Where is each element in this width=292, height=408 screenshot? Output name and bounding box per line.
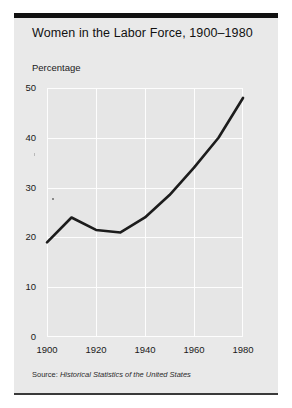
y-tick-label: 10 (8, 282, 36, 292)
source-title: Historical Statistics of the United Stat… (60, 370, 191, 379)
print-speck (52, 198, 54, 200)
x-tick-label: 1900 (25, 345, 69, 355)
y-tick-label: 40 (8, 133, 36, 143)
gridline-vertical (145, 88, 146, 337)
source-note: Source: Historical Statistics of the Uni… (32, 370, 191, 379)
x-tick-label: 1920 (74, 345, 118, 355)
x-tick-label: 1960 (172, 345, 216, 355)
gridline-vertical (194, 88, 195, 337)
plot-wrapper: 01020304050 19001920194019601980 (0, 0, 292, 408)
plot-area (47, 88, 243, 337)
x-tick-label: 1940 (123, 345, 167, 355)
y-tick-label: 50 (8, 83, 36, 93)
print-speck (34, 153, 35, 156)
y-tick-label: 20 (8, 232, 36, 242)
source-label: Source: (32, 370, 58, 379)
axis-edge-right (242, 88, 243, 337)
x-tick-label: 1980 (221, 345, 265, 355)
axis-edge-left (47, 88, 48, 337)
gridline-vertical (96, 88, 97, 337)
y-tick-label: 0 (8, 332, 36, 342)
y-tick-label: 30 (8, 183, 36, 193)
